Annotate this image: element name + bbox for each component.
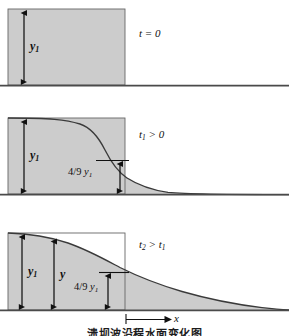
depth-label-t2: y1 [28,265,37,279]
figure-canvas [0,0,289,336]
time-label-t0: t = 0 [139,28,161,39]
local-depth-label-t2: y [60,268,65,280]
panel-t0-graphic [0,9,289,86]
x-axis-label: x [174,313,179,324]
figure-caption: 溃坝波沿程水面变化图 [0,325,289,336]
depth-label-t1: y1 [30,149,39,163]
depth-label-t0: y1 [30,40,39,54]
critical-depth-label-t2: 4/9 y1 [74,282,98,294]
critical-depth-label-t1: 4/9 y1 [68,167,92,179]
time-label-t1: t1 > 0 [139,129,164,141]
time-label-t2: t2 > t1 [139,239,166,251]
reservoir-block-t0 [8,9,125,85]
